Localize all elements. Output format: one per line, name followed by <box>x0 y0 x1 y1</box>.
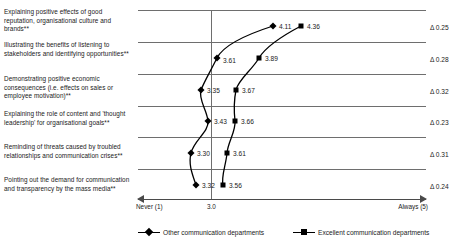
category-label: Pointing out the demand for communicatio… <box>4 176 134 193</box>
delta-column: Δ 0.25 Δ 0.28 Δ 0.32 Δ 0.23 Δ 0.31 Δ 0.2… <box>430 0 465 200</box>
data-label-excellent: 3.56 <box>229 182 242 189</box>
data-label-other: 3.32 <box>202 182 215 189</box>
data-label-excellent: 3.66 <box>241 118 254 125</box>
data-label-other: 3.35 <box>207 87 220 94</box>
data-point-excellent[interactable] <box>221 183 226 188</box>
category-label: Illustrating the benefits of listening t… <box>4 41 134 58</box>
legend-item-excellent[interactable]: Excellent communication departments <box>293 226 429 238</box>
category-labels-column: Explaining positive effects of good repu… <box>4 0 136 200</box>
legend-item-other[interactable]: Other communication departments <box>138 226 264 238</box>
data-point-excellent[interactable] <box>299 24 304 29</box>
plot-area: Never (1) 3.0 Always (5) 4.11 3.61 3.35 … <box>138 0 426 200</box>
category-label: Explaining the role of content and 'thou… <box>4 110 134 127</box>
data-label-excellent: 3.61 <box>233 150 246 157</box>
chart-legend: Other communication departments Excellen… <box>138 226 458 240</box>
series-line-excellent <box>223 26 301 185</box>
horizontal-line-chart: Explaining positive effects of good repu… <box>0 0 465 246</box>
data-point-excellent[interactable] <box>233 119 238 124</box>
data-label-other: 4.11 <box>279 23 291 30</box>
data-point-excellent[interactable] <box>257 56 262 61</box>
data-label-excellent: 4.36 <box>307 23 320 30</box>
delta-value: Δ 0.24 <box>430 183 449 190</box>
legend-square-marker-icon <box>293 228 315 237</box>
data-label-other: 3.61 <box>223 57 236 64</box>
axis-tick-label-mid: 3.0 <box>207 203 216 210</box>
data-label-other: 3.30 <box>197 150 210 157</box>
series-line-other <box>190 26 273 185</box>
category-label: Explaining positive effects of good repu… <box>4 8 134 34</box>
delta-value: Δ 0.31 <box>430 151 449 158</box>
delta-value: Δ 0.28 <box>430 56 449 63</box>
delta-value: Δ 0.32 <box>430 88 449 95</box>
series-lines <box>138 0 426 200</box>
data-label-other: 3.43 <box>214 118 227 125</box>
legend-label: Excellent communication departments <box>318 229 429 236</box>
category-label: Demonstrating positive economic conseque… <box>4 75 134 101</box>
category-label: Reminding of threats caused by troubled … <box>4 143 134 160</box>
data-point-excellent[interactable] <box>234 88 239 93</box>
legend-diamond-marker-icon <box>138 228 160 237</box>
data-point-excellent[interactable] <box>225 151 230 156</box>
axis-tick-label-always: Always (5) <box>398 203 428 210</box>
delta-value: Δ 0.25 <box>430 24 449 31</box>
axis-tick-label-never: Never (1) <box>136 203 163 210</box>
data-label-excellent: 3.67 <box>242 87 255 94</box>
data-label-excellent: 3.89 <box>265 55 278 62</box>
legend-label: Other communication departments <box>163 229 264 236</box>
delta-value: Δ 0.23 <box>430 119 449 126</box>
